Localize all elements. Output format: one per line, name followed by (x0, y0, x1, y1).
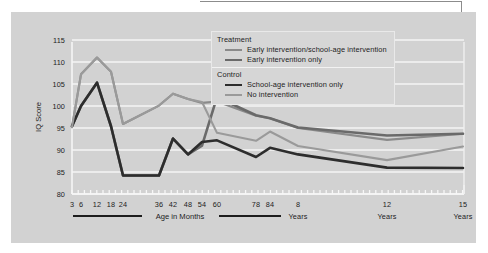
x-tick-label-months: 36 (155, 200, 163, 209)
legend-label: School-age intervention only (247, 80, 343, 90)
page-frame-top-rule (200, 1, 462, 2)
x-tick-label-months: 12 (93, 200, 101, 209)
x-tick-label-years: 8 (296, 200, 300, 209)
x-tick-label-years: 12 (383, 200, 391, 209)
y-tick-label: 115 (53, 36, 65, 45)
legend-item-early-intervention-school-age: Early intervention/school-age interventi… (225, 45, 389, 55)
y-tick-label: 80 (57, 190, 65, 199)
y-tick-label: 90 (57, 146, 65, 155)
y-tick-label: 95 (57, 124, 65, 133)
legend-group-control: Control School-age intervention only No … (217, 70, 389, 100)
legend-item-school-age-intervention-only: School-age intervention only (225, 80, 389, 90)
x-tick-label-years: 15 (459, 200, 467, 209)
legend-swatch-icon (225, 94, 242, 96)
y-tick-label: 100 (53, 102, 65, 111)
legend-label: Early intervention/school-age interventi… (247, 45, 387, 55)
legend-group-title-treatment: Treatment (217, 35, 389, 45)
legend-group-title-control: Control (217, 70, 389, 80)
x-tick-label-months: 42 (169, 200, 177, 209)
legend-item-early-intervention-only: Early intervention only (225, 55, 389, 65)
x-tick-label-months: 48 (184, 200, 192, 209)
legend-group-treatment: Treatment Early intervention/school-age … (217, 35, 389, 65)
x-tick-label-months: 6 (79, 200, 83, 209)
x-axis-title-months: Age in Months (156, 212, 205, 221)
x-tick-unit-years: Years (378, 212, 397, 221)
x-tick-label-months: 54 (198, 200, 206, 209)
y-axis-title: IQ Score (34, 102, 43, 132)
legend-item-no-intervention: No intervention (225, 90, 389, 100)
figure-panel: 80859095100105110115IQ Score361218243642… (11, 12, 476, 243)
x-tick-label-months: 24 (119, 200, 127, 209)
x-tick-unit-years: Years (454, 212, 473, 221)
y-tick-label: 85 (57, 168, 65, 177)
legend-label: Early intervention only (247, 55, 322, 65)
legend-swatch-icon (225, 84, 242, 87)
legend-divider (212, 67, 394, 68)
legend-label: No intervention (247, 90, 298, 100)
x-tick-label-months: 84 (266, 200, 274, 209)
x-tick-unit-years: Years (289, 212, 308, 221)
x-tick-label-months: 60 (213, 200, 221, 209)
y-tick-label: 110 (53, 58, 65, 67)
x-tick-label-months: 78 (252, 200, 260, 209)
x-tick-label-months: 3 (70, 200, 74, 209)
x-tick-label-months: 18 (107, 200, 115, 209)
chart-legend: Treatment Early intervention/school-age … (211, 31, 395, 105)
y-tick-label: 105 (53, 80, 65, 89)
legend-swatch-icon (225, 49, 242, 51)
legend-swatch-icon (225, 59, 242, 62)
